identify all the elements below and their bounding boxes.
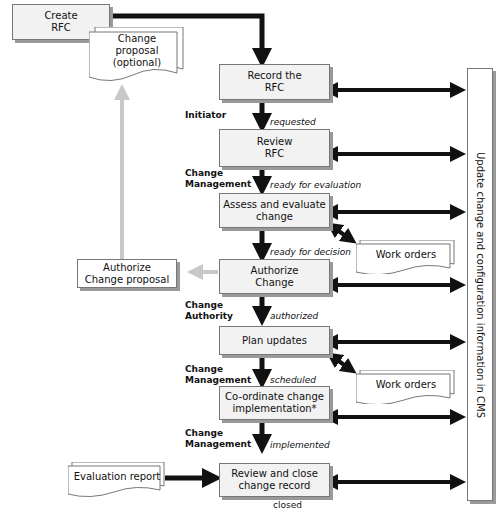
- role-initiator: Initiator: [185, 110, 226, 121]
- role-change-management-1: Change Management: [185, 168, 251, 190]
- record-rfc-step: Record the RFC: [219, 64, 330, 100]
- cms-update-bar: Update change and configuration informat…: [467, 68, 493, 501]
- state-implemented: implemented: [270, 440, 330, 451]
- state-closed: closed: [273, 500, 302, 511]
- role-change-management-2: Change Management: [185, 364, 251, 386]
- state-ready-for-evaluation: ready for evaluation: [270, 180, 361, 191]
- role-change-management-3: Change Management: [185, 428, 251, 450]
- cms-label: Update change and configuration informat…: [475, 151, 486, 417]
- work-orders-document-2: Work orders: [356, 370, 456, 402]
- review-close-step: Review and close change record: [219, 463, 330, 497]
- state-ready-for-decision: ready for decision: [270, 247, 351, 258]
- plan-updates-step: Plan updates: [219, 326, 330, 355]
- authorize-change-proposal-step: Authorize Change proposal: [77, 259, 177, 288]
- coordinate-implementation-step: Co-ordinate change implementation*: [219, 386, 330, 420]
- authorize-change-step: Authorize Change: [219, 259, 330, 294]
- work-orders-document-1: Work orders: [356, 240, 456, 272]
- role-change-authority: Change Authority: [185, 300, 233, 322]
- assess-evaluate-step: Assess and evaluate change: [219, 193, 330, 228]
- state-scheduled: scheduled: [270, 375, 316, 386]
- evaluation-report-document: Evaluation report: [68, 462, 166, 496]
- state-requested: requested: [270, 117, 316, 128]
- state-authorized: authorized: [270, 311, 318, 322]
- review-rfc-step: Review RFC: [219, 129, 330, 167]
- change-proposal-document: Change proposal (optional): [89, 27, 185, 83]
